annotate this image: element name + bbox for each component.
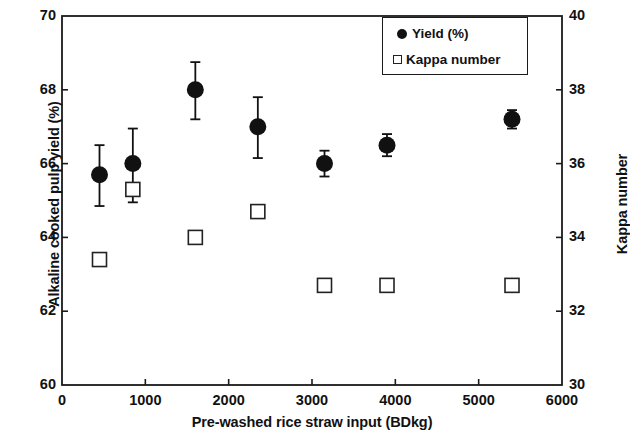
x-axis-tick-label: 2000 [199, 392, 259, 408]
x-axis-tick-label: 3000 [282, 392, 342, 408]
y-axis-left-tick-label: 70 [10, 7, 56, 23]
x-axis-tick-label: 4000 [365, 392, 425, 408]
filled-circle-icon [397, 29, 407, 39]
chart-legend: Yield (%) Kappa number [382, 17, 528, 75]
y-axis-right-tick-label: 30 [569, 376, 615, 392]
y-axis-left-tick-label: 60 [10, 376, 56, 392]
y-axis-left-tick-label: 64 [10, 228, 56, 244]
axis-ticks [62, 90, 562, 385]
y-axis-left-tick-label: 62 [10, 302, 56, 318]
yield-error-bars [95, 62, 518, 206]
x-axis-tick-label: 0 [32, 392, 92, 408]
x-axis-tick-label: 1000 [115, 392, 175, 408]
yield-data-points [91, 81, 521, 183]
y-axis-right-tick-label: 40 [569, 7, 615, 23]
x-axis-tick-label: 5000 [449, 392, 509, 408]
legend-item-kappa: Kappa number [393, 52, 501, 67]
y-axis-right-title: Kappa number [614, 54, 630, 354]
y-axis-right-tick-label: 32 [569, 302, 615, 318]
y-axis-left-tick-label: 68 [10, 81, 56, 97]
y-axis-right-tick-label: 36 [569, 155, 615, 171]
y-axis-right-tick-label: 34 [569, 228, 615, 244]
open-square-icon [393, 55, 402, 64]
kappa-data-points [93, 182, 520, 292]
x-axis-title: Pre-washed rice straw input (BDkg) [62, 414, 562, 430]
legend-item-yield: Yield (%) [397, 26, 469, 41]
legend-label-yield: Yield (%) [412, 26, 469, 41]
y-axis-right-tick-label: 38 [569, 81, 615, 97]
y-axis-left-tick-label: 66 [10, 155, 56, 171]
legend-label-kappa: Kappa number [406, 52, 501, 67]
x-axis-tick-label: 6000 [532, 392, 592, 408]
